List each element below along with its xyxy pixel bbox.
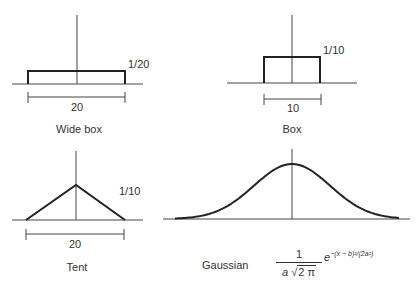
box-width-label: 10	[287, 102, 299, 114]
formula-exponent: −(x − b)²/(2a²)	[330, 250, 373, 257]
box-plot	[227, 15, 357, 105]
box-caption: Box	[283, 123, 302, 135]
wide-box-width-label: 20	[71, 101, 83, 113]
tent-height-label: 1/10	[119, 185, 140, 197]
gaussian-curve	[175, 164, 399, 219]
gaussian-caption: Gaussian	[202, 259, 248, 271]
formula-denominator: a √2 π	[276, 263, 322, 281]
wide-box-caption: Wide box	[56, 123, 102, 135]
box-height-label: 1/10	[323, 44, 344, 56]
wide-box-plot	[12, 15, 143, 103]
formula-exponential: e−(x − b)²/(2a²)	[324, 250, 373, 263]
formula-sqrt-arg: 2 π	[297, 265, 316, 278]
gaussian-formula: 1 a √2 π e−(x − b)²/(2a²)	[276, 246, 416, 286]
tent-width-label: 20	[69, 238, 81, 250]
formula-numerator: 1	[276, 246, 322, 262]
tent-caption: Tent	[67, 261, 88, 273]
formula-fraction: 1 a √2 π	[276, 246, 322, 281]
wide-box-height-label: 1/20	[128, 58, 149, 70]
gaussian-plot	[163, 149, 410, 219]
formula-a: a	[282, 266, 288, 278]
